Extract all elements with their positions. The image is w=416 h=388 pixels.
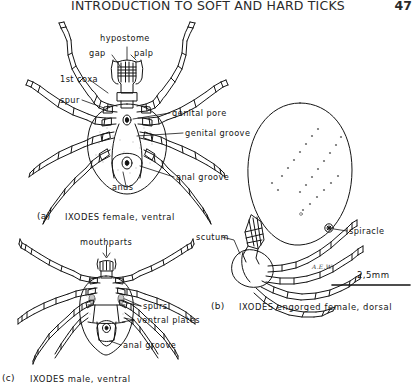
tick-anatomy-plate bbox=[0, 0, 416, 388]
figure-c-caption-marker: (c) bbox=[2, 374, 15, 383]
label-hypostome: hypostome bbox=[100, 34, 150, 42]
label-first-coxa: 1st coxa bbox=[60, 75, 98, 83]
label-palp: palp bbox=[134, 49, 154, 57]
label-ventral-plates: ventral plates bbox=[137, 316, 200, 324]
artist-signature: A.E.W. bbox=[312, 263, 333, 270]
figure-b-caption-marker: (b) bbox=[211, 302, 225, 311]
label-spiracle: spiracle bbox=[349, 227, 385, 235]
label-anal-groove-a: anal groove bbox=[176, 173, 229, 181]
label-gap: gap bbox=[89, 49, 106, 57]
label-genital-groove: genital groove bbox=[185, 129, 250, 137]
figure-a-caption-marker: (a) bbox=[37, 212, 50, 221]
figure-c-caption: IXODES male, ventral bbox=[30, 375, 131, 383]
label-spur: spur bbox=[60, 96, 80, 104]
label-scutum: scutum bbox=[196, 233, 229, 241]
scale-bar-label: 2,5mm bbox=[357, 270, 389, 280]
label-anus: anus bbox=[112, 183, 133, 191]
figure-a-caption: IXODES female, ventral bbox=[65, 213, 175, 221]
book-page: INTRODUCTION TO SOFT AND HARD TICKS 47 bbox=[0, 0, 416, 388]
label-genital-pore: genital pore bbox=[172, 109, 227, 117]
label-spurs: spurs bbox=[143, 302, 168, 310]
figure-b-caption: IXODES engorged female, dorsal bbox=[239, 303, 392, 311]
label-mouthparts: mouthparts bbox=[80, 238, 132, 246]
label-anal-groove-c: anal groove bbox=[123, 341, 176, 349]
